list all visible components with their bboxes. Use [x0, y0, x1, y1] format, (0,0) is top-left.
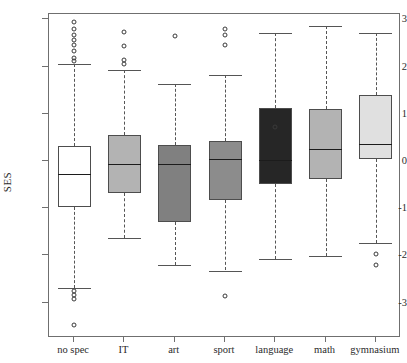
- y-tick-mark: [42, 113, 48, 114]
- y-tick-label: 0: [369, 155, 407, 166]
- whisker-cap-upper: [309, 26, 342, 27]
- outlier-point: [373, 262, 378, 267]
- y-tick-label: -2: [369, 249, 407, 260]
- whisker-cap-upper: [209, 75, 242, 76]
- x-tick-label-art: art: [168, 344, 179, 355]
- boxplot-figure: SES 3210-1-2-3no specITartsportlanguagem…: [0, 0, 407, 363]
- y-tick-label: -1: [369, 202, 407, 213]
- whisker-upper: [124, 70, 125, 135]
- outlier-point: [72, 49, 77, 54]
- outlier-point: [122, 30, 127, 35]
- x-tick-mark: [274, 337, 275, 342]
- whisker-lower: [225, 200, 226, 270]
- whisker-cap-lower: [359, 243, 392, 244]
- outlier-point: [72, 58, 77, 63]
- y-tick-mark: [42, 254, 48, 255]
- x-tick-label-language: language: [255, 344, 293, 355]
- median-line: [108, 164, 141, 165]
- median-line: [209, 159, 242, 160]
- outlier-point: [72, 296, 77, 301]
- whisker-upper: [326, 26, 327, 109]
- x-tick-label-no-spec: no spec: [57, 344, 89, 355]
- x-tick-label-math: math: [314, 344, 335, 355]
- x-tick-label-IT: IT: [118, 344, 128, 355]
- box-iqr: [58, 146, 91, 207]
- y-tick-label: 1: [369, 107, 407, 118]
- whisker-cap-lower: [259, 259, 292, 260]
- whisker-lower: [175, 222, 176, 265]
- whisker-upper: [74, 64, 75, 146]
- box-iqr: [359, 95, 392, 159]
- whisker-cap-lower: [158, 265, 191, 266]
- whisker-cap-upper: [58, 64, 91, 65]
- x-tick-mark: [375, 337, 376, 342]
- median-line: [158, 164, 191, 165]
- outlier-point: [122, 43, 127, 48]
- outlier-point: [72, 32, 77, 37]
- x-tick-mark: [73, 337, 74, 342]
- median-line: [259, 160, 292, 161]
- outlier-point: [122, 61, 127, 66]
- y-axis-title: SES: [1, 171, 13, 191]
- x-tick-label-sport: sport: [214, 344, 235, 355]
- x-tick-mark: [224, 337, 225, 342]
- box-iqr: [209, 141, 242, 200]
- y-tick-mark: [42, 66, 48, 67]
- outlier-point: [223, 26, 228, 31]
- whisker-lower: [275, 184, 276, 259]
- outlier-point: [72, 322, 77, 327]
- outlier-point: [72, 43, 77, 48]
- outlier-point: [273, 125, 278, 130]
- box-iqr: [309, 109, 342, 179]
- outlier-point: [223, 32, 228, 37]
- outlier-point: [72, 26, 77, 31]
- median-line: [58, 174, 91, 175]
- median-line: [309, 149, 342, 150]
- y-tick-label: -3: [369, 296, 407, 307]
- outlier-point: [172, 33, 177, 38]
- whisker-upper: [275, 33, 276, 108]
- whisker-cap-lower: [209, 271, 242, 272]
- y-tick-mark: [42, 160, 48, 161]
- outlier-point: [72, 19, 77, 24]
- whisker-lower: [124, 193, 125, 238]
- whisker-lower: [326, 179, 327, 256]
- x-tick-label-gymnasium: gymnasium: [350, 344, 399, 355]
- whisker-cap-upper: [158, 84, 191, 85]
- x-tick-mark: [123, 337, 124, 342]
- x-tick-mark: [174, 337, 175, 342]
- whisker-cap-upper: [108, 70, 141, 71]
- whisker-cap-upper: [259, 33, 292, 34]
- box-iqr: [158, 145, 191, 222]
- box-iqr: [259, 108, 292, 184]
- outlier-point: [223, 293, 228, 298]
- whisker-cap-lower: [309, 256, 342, 257]
- y-tick-label: 3: [369, 13, 407, 24]
- whisker-cap-upper: [359, 33, 392, 34]
- y-tick-label: 2: [369, 60, 407, 71]
- median-line: [359, 144, 392, 145]
- whisker-cap-lower: [108, 238, 141, 239]
- whisker-lower: [74, 207, 75, 288]
- y-tick-mark: [42, 302, 48, 303]
- whisker-upper: [225, 75, 226, 141]
- outlier-point: [223, 43, 228, 48]
- plot-area: [48, 13, 400, 337]
- whisker-upper: [175, 84, 176, 145]
- y-tick-mark: [42, 18, 48, 19]
- x-tick-mark: [325, 337, 326, 342]
- y-tick-mark: [42, 207, 48, 208]
